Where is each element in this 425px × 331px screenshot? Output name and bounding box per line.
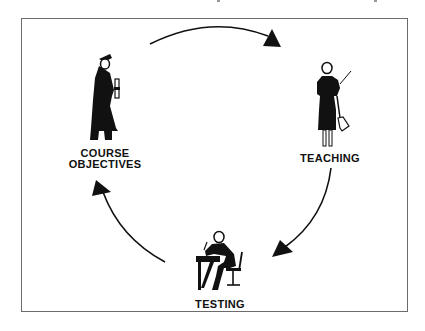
arrow-testing-to-course — [92, 180, 165, 262]
node-label-testing: TESTING — [180, 299, 260, 310]
arrow-course-to-teaching — [150, 27, 281, 47]
arrow-teaching-to-testing — [272, 168, 331, 257]
label-line: TEACHING — [290, 153, 370, 164]
node-label-teaching: TEACHING — [290, 153, 370, 164]
node-label-course-objectives: COURSE OBJECTIVES — [62, 148, 148, 170]
label-line: OBJECTIVES — [62, 159, 148, 170]
student-writing-at-desk-icon — [196, 232, 242, 291]
teacher-with-pointer-icon — [317, 63, 351, 147]
label-line: TESTING — [180, 299, 260, 310]
graduate-with-diploma-icon — [90, 54, 120, 140]
